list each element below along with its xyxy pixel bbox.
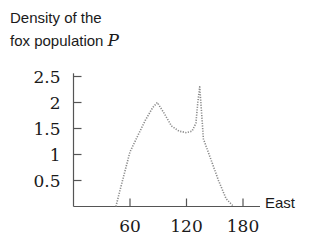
x-tick-label: 120 <box>170 216 202 236</box>
y-tick-label: 0.5 <box>33 171 60 191</box>
density-curve <box>116 87 234 207</box>
y-tick-label: 2 <box>50 93 61 113</box>
x-tick-label: 180 <box>227 216 259 236</box>
y-tick-label: 1.5 <box>33 119 60 139</box>
x-axis-label: East <box>265 194 296 211</box>
y-tick-label: 1 <box>50 145 61 165</box>
x-tick-label: 60 <box>119 216 141 236</box>
y-tick-label: 2.5 <box>33 67 60 87</box>
line-chart: 0.511.522.560120180East <box>0 0 309 250</box>
